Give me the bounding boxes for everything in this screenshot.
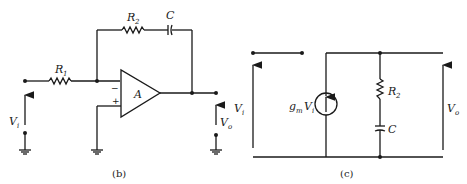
- svg-text:o: o: [455, 109, 459, 117]
- output-terminal: [214, 91, 218, 95]
- label-r2: R: [126, 11, 135, 24]
- svg-text:2: 2: [395, 92, 401, 100]
- svg-text:1: 1: [63, 70, 67, 78]
- resistor-r2: [377, 79, 383, 99]
- resistor-r2: [122, 27, 144, 33]
- label-c: C: [388, 123, 397, 136]
- svg-text:m: m: [296, 107, 303, 115]
- noninverting-input-sign: +: [112, 96, 120, 106]
- label-r2: R: [387, 85, 396, 98]
- svg-text:o: o: [228, 123, 232, 131]
- resistor-r1: [49, 78, 71, 84]
- ground-symbol: [19, 150, 31, 154]
- ground-symbol: [91, 150, 103, 154]
- circuit-diagram: R 1 R 2 C A − +: [0, 0, 467, 184]
- svg-text:i: i: [17, 122, 19, 130]
- label-gm: g: [289, 100, 296, 113]
- svg-text:i: i: [242, 109, 244, 117]
- capacitor-c: [168, 25, 172, 35]
- ground-symbol: [210, 150, 222, 154]
- label-amp-gain: A: [133, 88, 142, 101]
- figure-c-small-signal-model: V i g m V i R 2 C V o (c): [234, 51, 459, 179]
- caption-b: (b): [112, 168, 126, 179]
- label-r1: R: [54, 63, 63, 76]
- figure-b-inverting-integrator: R 1 R 2 C A − +: [9, 9, 232, 179]
- output-junction: [190, 91, 194, 95]
- svg-text:i: i: [312, 107, 314, 115]
- svg-text:2: 2: [134, 18, 140, 26]
- caption-c: (c): [340, 168, 354, 179]
- label-c: C: [166, 9, 175, 22]
- inverting-input-sign: −: [111, 83, 119, 93]
